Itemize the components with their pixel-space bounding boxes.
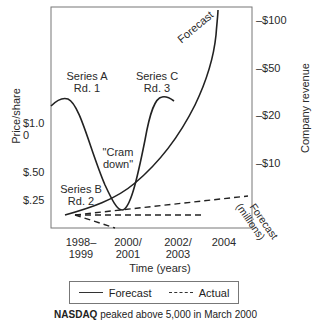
y-left-title: Price/share bbox=[10, 86, 22, 146]
series-a-line1: Series A bbox=[60, 70, 114, 82]
series-c-line2: Rd. 3 bbox=[130, 82, 184, 94]
annotation-series-c: Series C Rd. 3 bbox=[130, 70, 184, 94]
series-c-line1: Series C bbox=[130, 70, 184, 82]
tick-right-20: –$20 bbox=[256, 109, 280, 121]
caption-rest: peaked above 5,000 in March 2000 bbox=[97, 309, 257, 320]
x-tick-2: 2000/ 2001 bbox=[108, 236, 148, 260]
tick-right-100: –$100 bbox=[256, 14, 287, 26]
x-tick-3-a: 2002/ bbox=[158, 236, 198, 248]
legend-item-forecast: Forecast bbox=[79, 287, 152, 299]
tick-right-50: –$50 bbox=[256, 62, 280, 74]
tick-left-025: $.25 bbox=[23, 194, 44, 206]
tick-right-10: –$10 bbox=[256, 157, 280, 169]
series-b-line2: Rd. 2 bbox=[54, 195, 108, 207]
tick-left-1b: 0 bbox=[23, 129, 29, 141]
legend-item-actual: Actual bbox=[169, 287, 230, 299]
legend-forecast-label: Forecast bbox=[109, 287, 152, 299]
annotation-cram-down: "Cram down" bbox=[96, 146, 140, 170]
cram-line2: down" bbox=[96, 158, 140, 170]
x-tick-3: 2002/ 2003 bbox=[158, 236, 198, 260]
caption-bold: NASDAQ bbox=[54, 309, 97, 320]
actual-dashed-decline bbox=[75, 215, 115, 228]
x-title: Time (years) bbox=[100, 262, 220, 274]
x-tick-2-b: 2001 bbox=[108, 248, 148, 260]
x-tick-1: 1998– 1999 bbox=[61, 236, 101, 260]
x-tick-1-b: 1999 bbox=[61, 248, 101, 260]
tick-left-1: $1.0 bbox=[23, 117, 44, 129]
series-b-line1: Series B bbox=[54, 183, 108, 195]
legend-actual-label: Actual bbox=[199, 287, 230, 299]
cram-line1: "Cram bbox=[96, 146, 140, 158]
y-right-title: Company revenue bbox=[299, 63, 311, 153]
x-tick-3-b: 2003 bbox=[158, 248, 198, 260]
annotation-series-a: Series A Rd. 1 bbox=[60, 70, 114, 94]
x-tick-4: 2004 bbox=[204, 236, 244, 248]
series-a-line2: Rd. 1 bbox=[60, 82, 114, 94]
x-tick-1-a: 1998– bbox=[61, 236, 101, 248]
x-tick-2-a: 2000/ bbox=[108, 236, 148, 248]
dashed-line-icon bbox=[169, 292, 193, 293]
legend: Forecast Actual bbox=[69, 281, 239, 304]
annotation-series-b: Series B Rd. 2 bbox=[54, 183, 108, 207]
caption: NASDAQ peaked above 5,000 in March 2000 bbox=[0, 309, 311, 320]
tick-left-050: $.50 bbox=[23, 166, 44, 178]
solid-line-icon bbox=[79, 292, 103, 293]
